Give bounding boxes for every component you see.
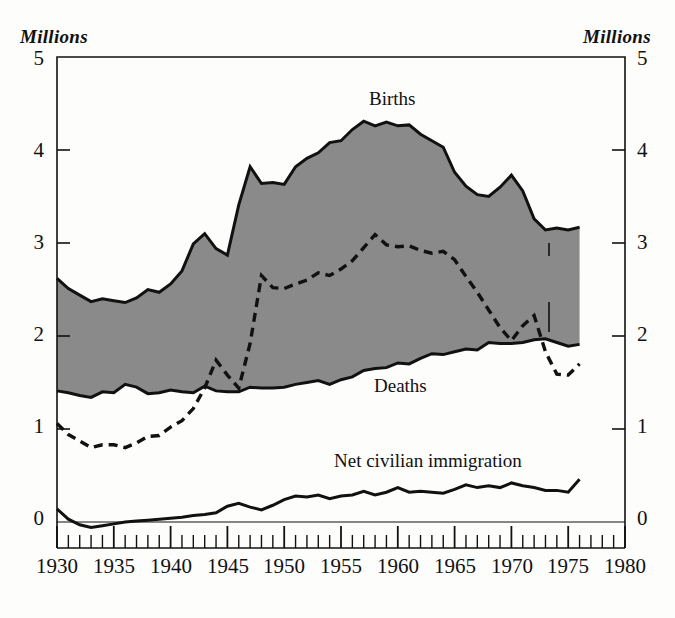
chart-figure: Millions Millions 5 4 3 2 1 0 5 4 3 2 1 … <box>0 0 675 618</box>
chart-plot-svg <box>0 0 675 618</box>
natural-increase-band <box>57 121 580 397</box>
series-line-net-civilian-immigration <box>57 479 580 527</box>
